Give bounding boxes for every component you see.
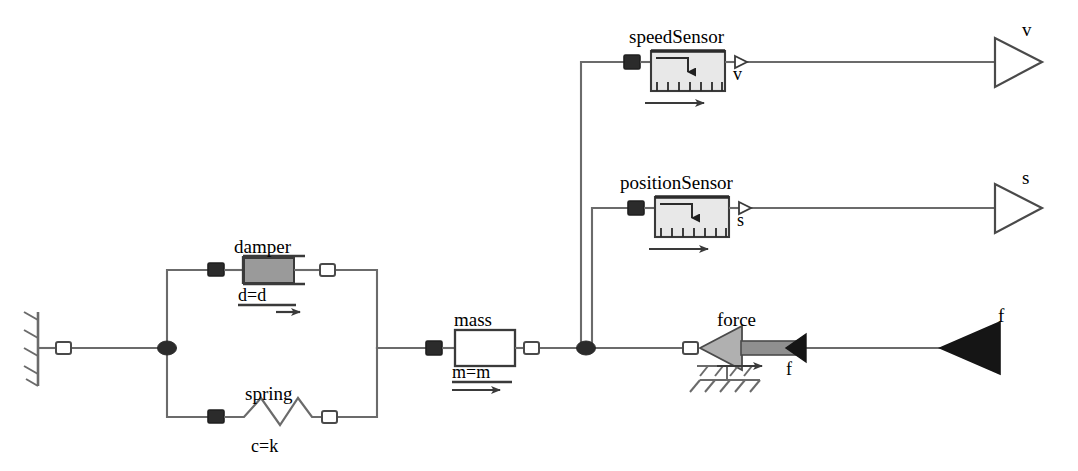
position-sensor-port-label: s bbox=[737, 211, 744, 229]
junction-dot-right bbox=[577, 341, 596, 355]
damper-parameter-label: d=d bbox=[238, 286, 266, 304]
mass-label: mass bbox=[454, 310, 492, 329]
signal-output-v-label: v bbox=[1022, 20, 1032, 39]
modelica-diagram-canvas: speedSensor v v positionSensor s s dampe… bbox=[0, 0, 1078, 471]
damper-flange-right-white bbox=[320, 264, 335, 276]
force-signal-input-triangle bbox=[786, 334, 806, 362]
junction-dot-left bbox=[158, 341, 177, 355]
force-arrow-head-gray bbox=[700, 326, 742, 370]
spring-label: spring bbox=[245, 384, 293, 403]
speedsensor-flange-dark bbox=[624, 55, 640, 69]
damper-piston-body bbox=[244, 258, 294, 283]
spring-parameter-label: c=k bbox=[251, 437, 278, 455]
mass-flange-left-dark bbox=[426, 341, 442, 355]
fixed-wall-ground[interactable] bbox=[24, 312, 71, 386]
wire-junction-to-spring bbox=[167, 348, 215, 417]
position-sensor-label: positionSensor bbox=[620, 173, 733, 192]
diagram-svg-layer bbox=[0, 0, 1078, 471]
speed-sensor-icon[interactable] bbox=[624, 51, 747, 103]
damper-icon[interactable] bbox=[208, 256, 335, 312]
damper-flange-left-dark bbox=[208, 263, 224, 276]
signal-output-v-triangle[interactable] bbox=[995, 38, 1042, 87]
position-sensor-icon[interactable] bbox=[628, 197, 751, 249]
wire-spring-to-rail bbox=[329, 348, 377, 417]
speed-sensor-label: speedSensor bbox=[629, 27, 724, 46]
speed-sensor-port-label: v bbox=[733, 65, 742, 83]
wire-junction-to-positionsensor bbox=[592, 208, 634, 348]
mass-body bbox=[455, 330, 515, 366]
flange-connector-white bbox=[56, 342, 71, 354]
signal-input-f-label: f bbox=[998, 306, 1004, 325]
signal-output-s-label: s bbox=[1022, 168, 1029, 187]
force-label: force bbox=[717, 310, 756, 329]
spring-flange-right-white bbox=[322, 411, 337, 423]
connection-lines bbox=[68, 62, 995, 417]
signal-output-s-triangle[interactable] bbox=[995, 184, 1042, 233]
wire-junction-to-speedsensor bbox=[581, 62, 630, 348]
positionsensor-flange-dark bbox=[628, 201, 644, 215]
mass-parameter-label: m=m bbox=[452, 363, 490, 381]
wire-junction-to-damper bbox=[167, 270, 215, 348]
wire-damper-to-rail bbox=[329, 270, 377, 348]
force-port-label: f bbox=[786, 360, 792, 378]
force-ground-support bbox=[690, 366, 760, 392]
force-flange-white bbox=[683, 342, 698, 354]
spring-flange-left-dark bbox=[208, 410, 224, 423]
wall-hatch-marks bbox=[24, 312, 38, 386]
mass-flange-right-white bbox=[524, 342, 539, 354]
signal-input-f-triangle[interactable] bbox=[940, 322, 1000, 374]
damper-label: damper bbox=[234, 237, 291, 256]
